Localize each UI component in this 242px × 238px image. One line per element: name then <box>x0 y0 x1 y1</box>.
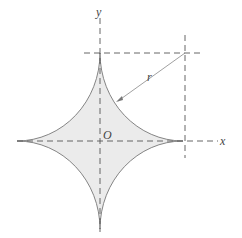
y-axis-label: y <box>95 5 102 19</box>
diagram: y x O r <box>0 0 242 238</box>
astroid-figure: y x O r <box>0 0 242 238</box>
radius-arrowhead <box>116 96 123 102</box>
radius-label: r <box>147 70 152 84</box>
x-axis-label: x <box>219 134 226 148</box>
origin-label: O <box>103 128 112 142</box>
